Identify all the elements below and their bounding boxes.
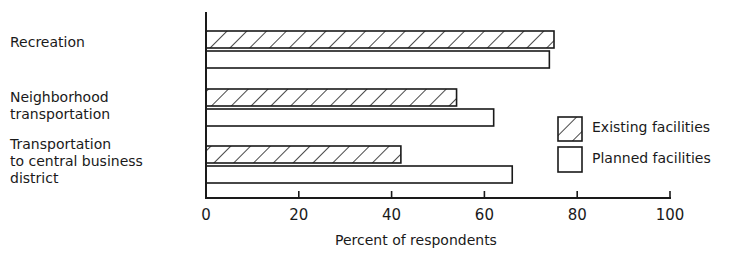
category-label-recreation: Recreation	[10, 34, 85, 51]
x-tick-label: 100	[656, 206, 685, 224]
bar-planned	[206, 166, 512, 183]
x-tick-label: 80	[568, 206, 587, 224]
bar-planned	[206, 51, 549, 68]
legend-existing-label: Existing facilities	[592, 119, 710, 135]
legend-empty-swatch-icon	[558, 147, 582, 172]
x-tick-label: 60	[475, 206, 494, 224]
legend-planned-label: Planned facilities	[592, 150, 711, 166]
bar-planned	[206, 109, 494, 126]
category-label-cbd: Transportation to central business distr…	[10, 136, 143, 187]
bar-existing	[206, 146, 401, 163]
x-tick-label: 20	[289, 206, 308, 224]
category-label-neighborhood: Neighborhood transportation	[10, 89, 110, 123]
x-tick-label: 0	[201, 206, 211, 224]
bar-existing	[206, 89, 457, 106]
bars-group	[206, 31, 554, 183]
legend-hatched-swatch-icon	[558, 117, 582, 141]
x-tick-label: 40	[382, 206, 401, 224]
x-ticks	[206, 191, 670, 198]
bar-existing	[206, 31, 554, 48]
x-axis-label: Percent of respondents	[335, 232, 497, 248]
